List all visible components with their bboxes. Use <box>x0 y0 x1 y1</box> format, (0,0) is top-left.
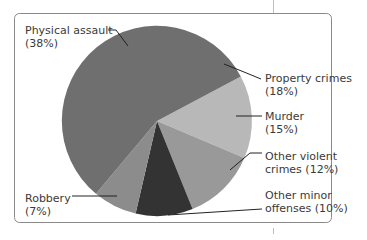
label-pct: (7%) <box>25 205 71 218</box>
label-text: Other violent <box>265 150 338 163</box>
label-other-minor: Other minor offenses (10%) <box>265 189 348 215</box>
label-text: Physical assault <box>25 24 113 37</box>
label-pct: (38%) <box>25 37 113 50</box>
label-physical-assault: Physical assault (38%) <box>25 24 113 50</box>
label-text: Robbery <box>25 192 71 205</box>
label-text: Other minor <box>265 189 348 202</box>
label-property-crimes: Property crimes (18%) <box>265 72 352 98</box>
label-robbery: Robbery (7%) <box>25 192 71 218</box>
label-pct: offenses (10%) <box>265 202 348 215</box>
label-murder: Murder (15%) <box>265 110 304 136</box>
label-text: Property crimes <box>265 72 352 85</box>
label-pct: (18%) <box>265 85 352 98</box>
label-pct: crimes (12%) <box>265 163 338 176</box>
label-other-violent: Other violent crimes (12%) <box>265 150 338 176</box>
label-text: Murder <box>265 110 304 123</box>
label-pct: (15%) <box>265 123 304 136</box>
